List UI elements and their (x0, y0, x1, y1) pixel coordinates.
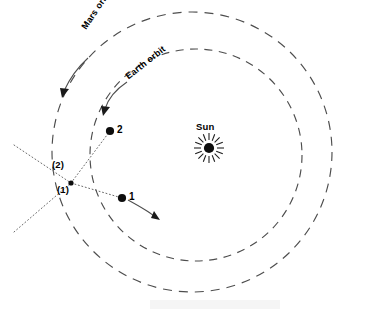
mars-orbit-path (52, 12, 332, 292)
scan-artifact (150, 300, 280, 309)
earth-position-2-marker (106, 127, 114, 135)
earth-orbit-path (90, 49, 302, 261)
mars-position-2-label: (2) (52, 160, 64, 170)
earth-position-1-label: 1 (129, 192, 135, 202)
mars-position-1-label: (1) (57, 185, 69, 195)
earth-position-1-marker (118, 194, 126, 202)
sun-icon (194, 133, 224, 163)
earth-position-1-direction-curve (128, 200, 154, 216)
sight-line-2 (14, 131, 110, 183)
earth-position-1-direction-arrowhead (151, 211, 160, 220)
mars-direction-arrowhead (60, 88, 69, 98)
earth-direction-arrowhead (101, 106, 110, 116)
sun-label: Sun (196, 122, 215, 132)
diagram-canvas (0, 0, 381, 312)
earth-position-2-label: 2 (117, 125, 123, 135)
orbit-diagram-figure: Mars orbit Earth orbit Sun 2 1 (2) (1) (0, 0, 381, 312)
